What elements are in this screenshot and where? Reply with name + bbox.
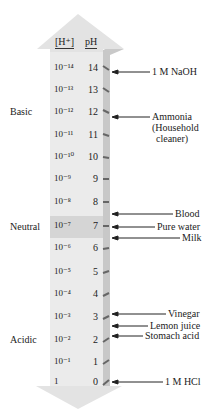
annotation-ammonia-sub1: (Household <box>152 122 199 133</box>
annotation-naoh: 1 M NaOH <box>152 66 197 77</box>
ph-value-0: 0 <box>84 376 98 387</box>
concentration-header: [H⁺] <box>55 36 74 49</box>
ph-value-2: 2 <box>84 334 98 345</box>
ph-value-8: 8 <box>84 196 98 207</box>
ph-value-12: 12 <box>84 106 98 117</box>
ph-value-4: 4 <box>84 288 98 299</box>
ph-value-5: 5 <box>84 266 98 277</box>
ph-value-6: 6 <box>84 242 98 253</box>
ph-value-9: 9 <box>84 173 98 184</box>
ph-header: pH <box>85 36 97 49</box>
region-neutral: Neutral <box>10 221 40 232</box>
annotation-hcl: 1 M HCl <box>165 376 201 387</box>
ph-value-13: 13 <box>84 84 98 95</box>
region-acidic: Acidic <box>10 334 37 345</box>
annotation-pure-water: Pure water <box>157 221 200 232</box>
ph-value-3: 3 <box>84 311 98 322</box>
ph-value-10: 10 <box>84 151 98 162</box>
region-basic: Basic <box>10 106 32 117</box>
annotation-vinegar: Vinegar <box>168 308 200 319</box>
ph-value-14: 14 <box>84 62 98 73</box>
annotation-stomach-acid: Stomach acid <box>145 330 199 341</box>
annotation-ammonia: Ammonia <box>152 111 192 122</box>
ph-value-11: 11 <box>84 129 98 140</box>
ph-value-1: 1 <box>84 356 98 367</box>
annotation-ammonia-sub2: cleaner) <box>156 133 188 144</box>
annotation-blood: Blood <box>175 208 199 219</box>
ph-scale-arrow <box>0 0 215 411</box>
ph-value-7: 7 <box>84 220 98 231</box>
annotation-milk: Milk <box>182 232 201 243</box>
